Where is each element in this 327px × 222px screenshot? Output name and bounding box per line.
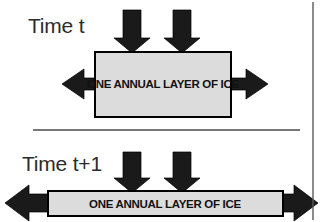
down-arrow-icon-bottom-left: [114, 152, 150, 193]
panel-time-t: Time t ONE ANNUAL LAYER OF ICE: [28, 10, 268, 117]
panel-time-t-plus-1: Time t+1 ONE ANNUAL LAYER OF ICE: [5, 152, 318, 221]
ice-layer-diagram: Time t ONE ANNUAL LAYER OF ICE Time t+1: [0, 0, 327, 222]
ice-layer-label-top: ONE ANNUAL LAYER OF ICE: [87, 78, 239, 90]
time-t-plus-1-label: Time t+1: [22, 152, 102, 175]
left-arrow-icon-bottom: [5, 185, 53, 221]
down-arrow-icon-top-left: [114, 10, 150, 53]
diagram-canvas: Time t ONE ANNUAL LAYER OF ICE Time t+1: [0, 0, 327, 222]
down-arrow-icon-top-right: [164, 10, 200, 53]
time-t-label: Time t: [28, 14, 85, 37]
ice-layer-label-bottom: ONE ANNUAL LAYER OF ICE: [89, 198, 241, 210]
down-arrow-icon-bottom-right: [164, 152, 200, 193]
